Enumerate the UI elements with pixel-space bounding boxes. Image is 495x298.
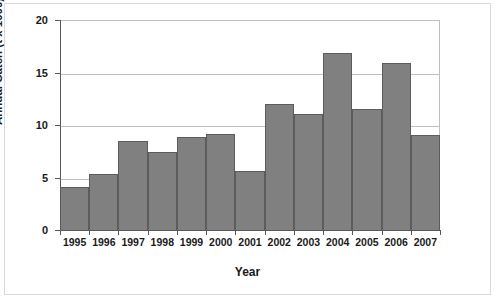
bar-2006 [382,63,411,231]
bar-series [60,21,439,230]
x-axis-tick-label: 1998 [151,236,174,248]
plot-area [60,20,440,230]
y-axis-tick-label: 10 [0,119,48,131]
x-axis-tick [382,230,383,235]
x-axis-tick-label: 1997 [121,236,144,248]
x-axis-tick [411,230,412,235]
bar-2005 [352,109,381,231]
x-axis-tick-label: 2005 [355,236,378,248]
x-axis-tick [89,230,90,235]
x-axis-tick [352,230,353,235]
y-axis-tick [55,73,60,74]
y-axis-tick-label: 5 [0,172,48,184]
y-axis-line [60,20,61,231]
bar-2003 [294,114,323,231]
y-axis-tick-label: 0 [0,224,48,236]
bar-1995 [60,187,89,231]
y-axis-tick [55,178,60,179]
x-axis-tick-label: 2003 [297,236,320,248]
x-axis-tick-label: 1996 [92,236,115,248]
bar-2001 [235,171,264,231]
x-axis-line [60,230,441,231]
bar-2007 [411,135,440,231]
bar-2004 [323,53,352,232]
x-axis-tick-label: 2000 [209,236,232,248]
chart-figure: Annual Catch (t x 1000) 05101520 1995199… [0,0,495,298]
x-axis-tick [60,230,61,235]
y-axis-tick-label: 15 [0,67,48,79]
x-axis-tick-label: 2002 [268,236,291,248]
y-axis-tick-label: 20 [0,14,48,26]
x-axis-tick-label: 2004 [326,236,349,248]
y-axis-tick [55,125,60,126]
bar-1996 [89,174,118,231]
bar-1997 [118,141,147,231]
x-axis-tick [235,230,236,235]
bar-2000 [206,134,235,231]
x-axis-title: Year [0,265,495,279]
x-axis-tick [323,230,324,235]
bar-1998 [148,152,177,231]
bar-1999 [177,137,206,232]
x-axis-tick [177,230,178,235]
x-axis-tick [118,230,119,235]
y-axis-tick [55,20,60,21]
x-axis-tick-label: 1999 [180,236,203,248]
x-axis-tick [148,230,149,235]
x-axis-tick-label: 2006 [384,236,407,248]
x-axis-tick [440,230,441,235]
x-axis-tick [265,230,266,235]
x-axis-tick-label: 2001 [238,236,261,248]
x-axis-tick [294,230,295,235]
bar-2002 [265,104,294,231]
x-axis-tick [206,230,207,235]
x-axis-tick-label: 2007 [414,236,437,248]
x-axis-tick-label: 1995 [63,236,86,248]
